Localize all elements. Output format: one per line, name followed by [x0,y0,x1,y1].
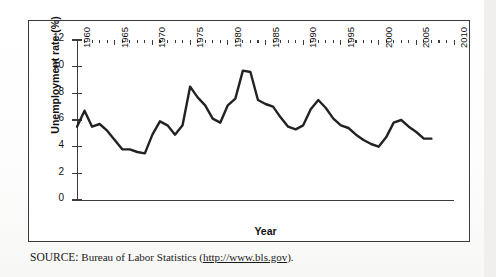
y-tick-label-0: 0 [58,192,64,203]
y-tick-label-12: 12 [53,32,64,43]
y-axis-title: Unemployment rate (%) [49,5,61,145]
x-axis-line [77,200,454,201]
x-axis-title: Year [77,225,454,237]
chart-frame: Unemployment rate (%) 024681012 19601965… [28,20,470,242]
source-close: ). [287,251,293,263]
source-caption: SOURCE: Bureau of Labor Statistics (http… [30,251,294,263]
figure-page: Unemployment rate (%) 024681012 19601965… [0,0,496,277]
y-tick-label-8: 8 [58,86,64,97]
y-tick-label-6: 6 [58,112,64,123]
source-body: Bureau of Labor Statistics ( [81,251,203,263]
chart-area: Unemployment rate (%) 024681012 19601965… [29,21,471,243]
source-link[interactable]: http://www.bls.gov [203,251,287,263]
unemployment-rate-line [77,40,454,200]
y-tick-label-4: 4 [58,139,64,150]
source-label: SOURCE: [30,251,79,263]
y-tick-label-10: 10 [53,59,64,70]
y-tick-label-2: 2 [58,166,64,177]
plot-region: 024681012 196019651970197519801985199019… [77,40,454,200]
page-edge-shadow [484,0,496,277]
x-tick-label-2010: 2010 [458,27,469,48]
